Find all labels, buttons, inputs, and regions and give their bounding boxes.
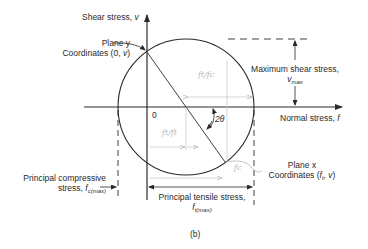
max-shear-stress-label: Maximum shear stress, vmax <box>245 64 345 87</box>
handwritten-note-middle: ft/ft <box>162 128 177 137</box>
plane-x-leader <box>227 161 262 172</box>
principal-compressive-stress-label: Principal compressive stress, fc(max) <box>10 173 106 196</box>
figure-caption: (b) <box>190 229 200 239</box>
origin-label: 0 <box>152 110 157 120</box>
mohr-circle-figure: Shear stress, v Normal stress, f 0 Plane… <box>0 0 368 249</box>
two-theta-label: 2θ <box>215 114 224 124</box>
plane-y-label: Plane y Coordinates (0, v) <box>56 38 130 58</box>
normal-stress-axis-label: Normal stress, f <box>280 113 340 123</box>
shear-stress-axis-label: Shear stress, v <box>82 12 139 22</box>
plane-x-label: Plane x Coordinates (ft, v) <box>262 160 342 183</box>
handwritten-note-upper: ft/fc <box>198 70 214 79</box>
two-theta-arc <box>211 109 214 126</box>
handwritten-note-lower: fc <box>234 163 241 172</box>
principal-tensile-stress-label: Principal tensile stress, ft(max) <box>150 192 254 215</box>
